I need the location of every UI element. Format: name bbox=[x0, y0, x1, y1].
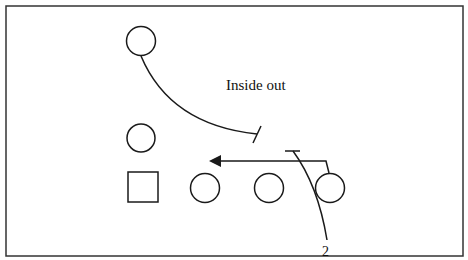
play-diagram: Inside out 2 bbox=[0, 0, 468, 260]
diagram-title: Inside out bbox=[226, 77, 286, 93]
route-label: 2 bbox=[322, 244, 329, 259]
